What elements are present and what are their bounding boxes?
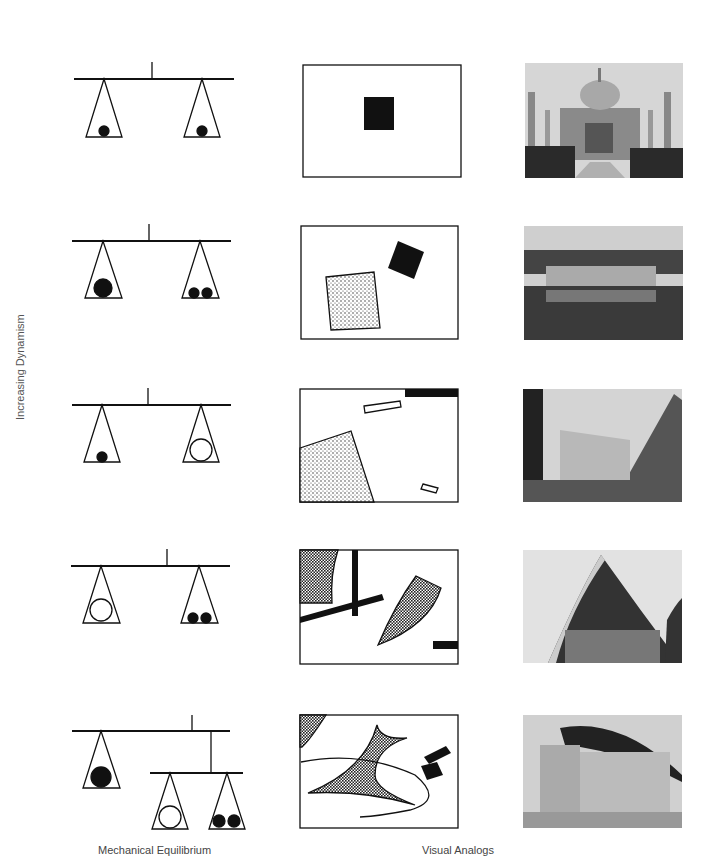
photo-colonnade-reflection xyxy=(524,226,683,340)
balance-row-4 xyxy=(71,549,230,623)
figure-canvas xyxy=(0,0,712,868)
diagram-row-1 xyxy=(303,65,461,177)
photo-taj-mahal xyxy=(525,63,683,178)
balance-row-2 xyxy=(72,224,231,298)
balance-row-5 xyxy=(72,715,245,829)
diagram-row-3 xyxy=(300,389,458,502)
photo-modern-building xyxy=(523,389,682,502)
caption-mechanical-equilibrium: Mechanical Equilibrium xyxy=(98,844,211,856)
balance-row-1 xyxy=(74,62,234,137)
axis-label-increasing-dynamism: Increasing Dynamism xyxy=(14,314,26,420)
caption-visual-analogs: Visual Analogs xyxy=(422,844,494,856)
photo-ronchamp-chapel xyxy=(523,715,682,828)
diagram-row-4 xyxy=(300,550,458,664)
diagram-row-5 xyxy=(300,715,458,828)
balance-row-3 xyxy=(72,388,231,462)
photo-sydney-opera-house xyxy=(523,550,682,663)
diagram-row-2 xyxy=(301,226,458,339)
